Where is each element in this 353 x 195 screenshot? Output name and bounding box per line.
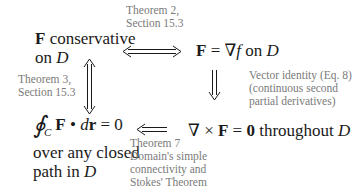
implies-down-arrow-icon	[209, 70, 220, 100]
double-arrow-horizontal-icon	[123, 46, 181, 57]
implication-arrows	[0, 0, 353, 195]
implies-left-arrow-icon	[137, 124, 167, 135]
double-arrow-vertical-icon	[84, 59, 95, 114]
